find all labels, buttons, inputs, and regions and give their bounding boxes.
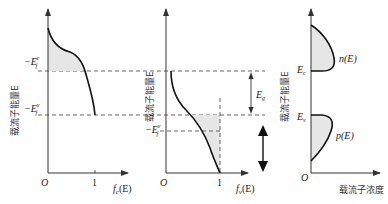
origin-label: O bbox=[301, 172, 308, 183]
ev-label: Ev bbox=[296, 111, 306, 123]
y-axis-label: 载流子能量E bbox=[279, 71, 290, 122]
level-efv-label: −Evf bbox=[24, 102, 40, 116]
double-arrow-head-up bbox=[258, 125, 268, 136]
panel-density: n(E) p(E) Ec Ev O 载流子浓度 载流子能量E bbox=[279, 9, 384, 195]
tick-one-label: 1 bbox=[217, 177, 222, 188]
ec-label: Ec bbox=[296, 64, 306, 76]
double-arrow-head-down bbox=[258, 161, 268, 172]
x-axis-label: 载流子浓度 bbox=[339, 184, 384, 195]
gap-label: Eg bbox=[255, 89, 265, 101]
fc-shaded-area bbox=[48, 28, 83, 71]
n-label: n(E) bbox=[339, 53, 357, 65]
gap-arrow-head-up bbox=[249, 72, 254, 79]
x-axis-label: fv(E) bbox=[236, 183, 255, 196]
panel-fv: O 1 fv(E) −Evf 载流子能量E Eg bbox=[144, 9, 268, 196]
origin-label: O bbox=[41, 177, 48, 188]
x-axis-label: fc(E) bbox=[113, 183, 132, 196]
level-efv-label: −Evf bbox=[145, 123, 161, 137]
panel-fc: O 1 fc(E) −Ecf −Evf 载流子能量E bbox=[9, 9, 132, 196]
p-shaded-area bbox=[311, 115, 332, 161]
gap-arrow-head-down bbox=[249, 107, 254, 114]
origin-label: O bbox=[160, 177, 167, 188]
y-axis-label: 载流子能量E bbox=[9, 85, 20, 136]
p-label: p(E) bbox=[335, 130, 354, 142]
y-axis-label: 载流子能量E bbox=[144, 71, 155, 122]
band-diagram: O 1 fc(E) −Ecf −Evf 载流子能量E O 1 fv(E) −Ev… bbox=[0, 0, 388, 204]
fc-curve bbox=[48, 28, 95, 115]
level-efc-label: −Ecf bbox=[24, 55, 40, 69]
tick-one-label: 1 bbox=[92, 177, 97, 188]
